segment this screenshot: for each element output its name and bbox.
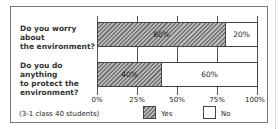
page-edge xyxy=(275,0,276,129)
legend-yes-swatch xyxy=(143,106,156,119)
question-1: Do you worry about the environment? xyxy=(20,24,98,51)
bar-q2-yes: 40% xyxy=(97,62,162,87)
bar-label: 20% xyxy=(233,30,250,39)
q2-line1: Do you do anything xyxy=(20,61,98,79)
q2-line3: environment? xyxy=(20,88,98,97)
tick-0: 0% xyxy=(91,96,102,104)
tick-25: 25% xyxy=(129,96,145,104)
q2-line2: to protect the xyxy=(20,79,98,88)
tick-100: 100% xyxy=(245,96,265,104)
legend-yes-label: Yes xyxy=(161,110,172,118)
legend-no-swatch xyxy=(203,106,216,119)
question-2: Do you do anything to protect the enviro… xyxy=(20,61,98,97)
bar-q2-no: 60% xyxy=(161,62,258,87)
legend-no-label: No xyxy=(221,110,231,118)
q1-line2: the environment? xyxy=(20,42,98,51)
tick-75: 75% xyxy=(209,96,225,104)
class-note: (3-1 class 40 students) xyxy=(19,110,99,118)
bar-q1-yes: 80% xyxy=(97,22,226,47)
tick-50: 50% xyxy=(169,96,185,104)
q1-line1: Do you worry about xyxy=(20,24,98,42)
bar-q1-no: 20% xyxy=(225,22,258,47)
bar-label: 60% xyxy=(201,70,218,79)
bar-label: 80% xyxy=(153,30,170,39)
bar-label: 40% xyxy=(121,70,138,79)
